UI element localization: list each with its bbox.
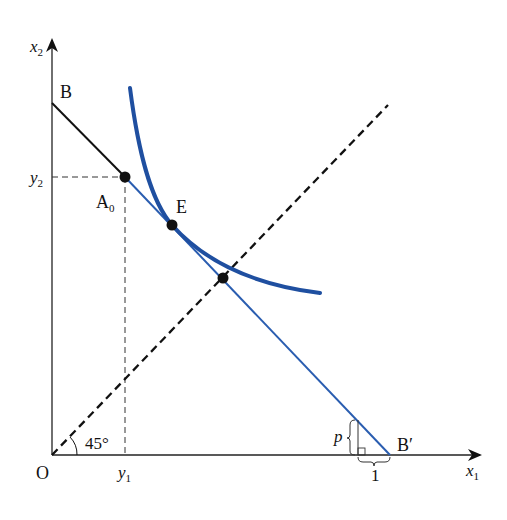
point-intersection: [218, 273, 229, 284]
x-axis-label: x1: [466, 462, 479, 482]
y1-tick-label: y1: [118, 464, 131, 484]
angle-arc: [70, 437, 77, 455]
point-a0: [120, 172, 131, 183]
point-e: [167, 220, 178, 231]
point-a0-label: A0: [96, 193, 115, 214]
indifference-curve: [130, 88, 320, 293]
y2-tick-label: y2: [30, 169, 43, 189]
point-e-label: E: [176, 198, 187, 216]
diagram-canvas: [0, 0, 507, 520]
origin-label: O: [36, 464, 49, 482]
rise-brace: [347, 420, 355, 455]
angle-label: 45°: [85, 435, 109, 452]
budget-line-black: [52, 103, 125, 177]
slope-run-label: 1: [371, 467, 380, 484]
y-axis-label: x2: [30, 38, 43, 58]
slope-rise-label: p: [334, 428, 343, 445]
point-b-label: B: [60, 83, 72, 101]
right-angle-mark: [358, 448, 365, 455]
point-bprime-label: B′: [397, 436, 413, 454]
run-brace: [358, 457, 390, 466]
